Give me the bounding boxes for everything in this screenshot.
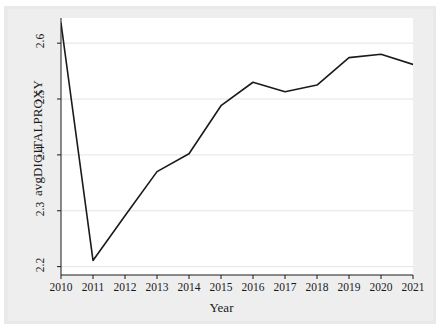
y-tick-label: 2.3 — [34, 196, 46, 222]
chart-container: avgDIGITALPROXY 2.22.32.42.52.6 20102011… — [0, 0, 443, 330]
x-tick-label: 2021 — [393, 281, 433, 293]
y-tick-label: 2.6 — [34, 28, 46, 54]
y-tick-label: 2.4 — [34, 140, 46, 166]
x-axis-label: Year — [0, 300, 443, 316]
axis-spines — [61, 18, 413, 275]
axis-ticks — [57, 43, 413, 279]
y-tick-label: 2.2 — [34, 252, 46, 278]
y-tick-label: 2.5 — [34, 84, 46, 110]
